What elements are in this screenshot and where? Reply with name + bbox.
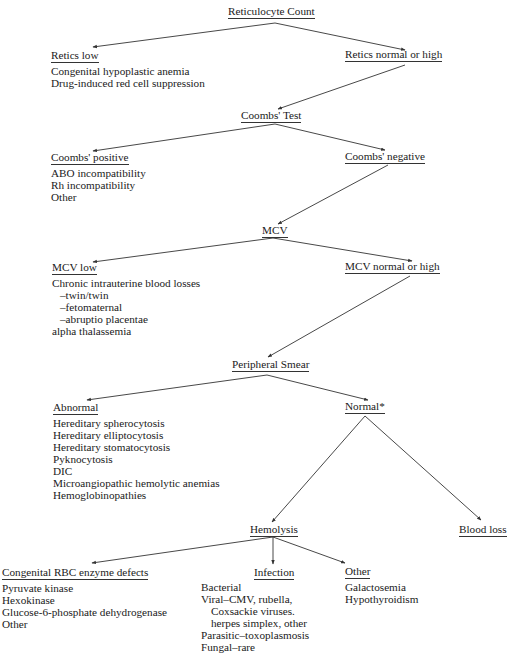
edge-retic-to-normal-high — [275, 23, 405, 50]
node-label: Coombs' positive — [51, 151, 129, 165]
node-peripheral-smear: Peripheral Smear — [232, 358, 309, 372]
node-abnormal: Abnormal Hereditary spherocytosis Heredi… — [53, 401, 220, 501]
node-items: ABO incompatibility Rh incompatibility O… — [51, 167, 146, 203]
node-items: Galactosemia Hypothyroidism — [345, 581, 418, 605]
node-label: Normal* — [345, 400, 385, 414]
node-items: Congenital hypoplastic anemia Drug-induc… — [51, 65, 205, 89]
node-items: Bacterial Viral–CMV, rubella, Coxsackie … — [201, 581, 309, 653]
list-item: herpes simplex, other — [201, 617, 309, 629]
list-item: Galactosemia — [345, 581, 418, 593]
list-item: Fungal–rare — [201, 641, 309, 653]
node-label: Infection — [254, 566, 294, 580]
node-label: Abnormal — [53, 401, 98, 415]
node-label: Congenital RBC enzyme defects — [2, 566, 148, 580]
node-mcv-low: MCV low Chronic intrauterine blood losse… — [52, 261, 200, 337]
node-label: Reticulocyte Count — [228, 5, 315, 19]
node-items: Hereditary spherocytosis Hereditary elli… — [53, 417, 220, 501]
list-item: Microangiopathic hemolytic anemias — [53, 477, 220, 489]
edge-retic-to-low — [93, 23, 275, 47]
node-label: Coombs' Test — [241, 109, 301, 123]
node-retics-normal-high: Retics normal or high — [345, 48, 442, 62]
node-items: Chronic intrauterine blood losses –twin/… — [52, 277, 200, 337]
list-item: alpha thalassemia — [52, 325, 200, 337]
list-item: –twin/twin — [52, 289, 200, 301]
edge-normal-to-blood-loss — [365, 416, 481, 520]
node-coombs-test: Coombs' Test — [241, 109, 301, 123]
node-label: MCV low — [52, 261, 97, 275]
edge-coombs-to-positive — [93, 124, 275, 151]
list-item: Pyknocytosis — [53, 453, 220, 465]
node-label: Peripheral Smear — [232, 358, 309, 372]
list-item: Hereditary spherocytosis — [53, 417, 220, 429]
node-coombs-negative: Coombs' negative — [345, 150, 425, 164]
node-hemolysis: Hemolysis — [250, 523, 298, 537]
node-label: Retics low — [51, 49, 99, 63]
node-label: MCV — [262, 224, 288, 238]
list-item: Hereditary stomatocytosis — [53, 441, 220, 453]
node-label: Coombs' negative — [345, 150, 425, 164]
edge-mcv-to-normal-high — [273, 238, 412, 261]
node-label: Retics normal or high — [345, 48, 442, 62]
list-item: Parasitic–toxoplasmosis — [201, 629, 309, 641]
edge-mcv-normal-to-smear — [268, 276, 410, 357]
node-infection-items: Bacterial Viral–CMV, rubella, Coxsackie … — [201, 581, 309, 653]
edge-smear-to-abnormal — [87, 375, 267, 400]
node-mcv-normal-high: MCV normal or high — [345, 260, 440, 274]
edge-hemolysis-to-congenital — [92, 537, 273, 563]
list-item: Congenital hypoplastic anemia — [51, 65, 205, 77]
node-other: Other Galactosemia Hypothyroidism — [345, 565, 418, 605]
node-label: Hemolysis — [250, 523, 298, 537]
node-infection-heading: Infection — [254, 566, 294, 580]
list-item: Coxsackie viruses. — [201, 605, 309, 617]
list-item: Other — [51, 191, 146, 203]
edge-coombs-to-negative — [275, 124, 385, 150]
list-item: Drug-induced red cell suppression — [51, 77, 205, 89]
list-item: ABO incompatibility — [51, 167, 146, 179]
edge-hemolysis-to-other — [273, 537, 345, 563]
node-label: Other — [345, 565, 370, 579]
node-normal: Normal* — [345, 400, 385, 414]
list-item: Hypothyroidism — [345, 593, 418, 605]
list-item: Hemoglobinopathies — [53, 489, 220, 501]
list-item: –abruptio placentae — [52, 313, 200, 325]
edge-negative-to-mcv — [278, 165, 388, 224]
node-coombs-positive: Coombs' positive ABO incompatibility Rh … — [51, 151, 146, 203]
node-blood-loss: Blood loss — [459, 523, 507, 537]
node-label: Blood loss — [459, 523, 507, 537]
edge-normal-high-to-coombs — [278, 65, 405, 109]
list-item: DIC — [53, 465, 220, 477]
node-mcv: MCV — [262, 224, 288, 238]
node-label: MCV normal or high — [345, 260, 440, 274]
edge-mcv-to-low — [93, 238, 273, 262]
node-retics-low: Retics low Congenital hypoplastic anemia… — [51, 49, 205, 89]
list-item: –fetomaternal — [52, 301, 200, 313]
edge-smear-to-normal — [267, 375, 368, 400]
edge-normal-to-hemolysis — [272, 416, 365, 522]
node-congenital-rbc-enzyme-defects: Congenital RBC enzyme defects Pyruvate k… — [2, 566, 167, 630]
node-reticulocyte-count: Reticulocyte Count — [228, 5, 315, 19]
list-item: Hexokinase — [2, 594, 167, 606]
list-item: Pyruvate kinase — [2, 582, 167, 594]
list-item: Viral–CMV, rubella, — [201, 593, 309, 605]
list-item: Chronic intrauterine blood losses — [52, 277, 200, 289]
list-item: Other — [2, 618, 167, 630]
list-item: Hereditary elliptocytosis — [53, 429, 220, 441]
node-items: Pyruvate kinase Hexokinase Glucose-6-pho… — [2, 582, 167, 630]
list-item: Rh incompatibility — [51, 179, 146, 191]
list-item: Glucose-6-phosphate dehydrogenase — [2, 606, 167, 618]
list-item: Bacterial — [201, 581, 309, 593]
